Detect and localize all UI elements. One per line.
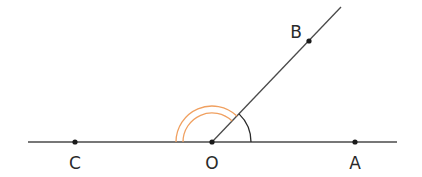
label-a: A — [349, 155, 361, 172]
label-b: B — [290, 24, 302, 41]
point-b — [306, 38, 311, 43]
label-c: C — [69, 155, 81, 172]
point-a — [352, 139, 357, 144]
point-o — [209, 139, 214, 144]
angle-aob-arc — [239, 114, 251, 142]
geometry-diagram — [0, 0, 422, 177]
ray-ob — [212, 7, 341, 142]
angle-boc-arc-outer — [176, 106, 237, 142]
label-o: O — [205, 155, 218, 172]
point-c — [72, 139, 77, 144]
angle-boc-arc-inner — [183, 113, 232, 142]
